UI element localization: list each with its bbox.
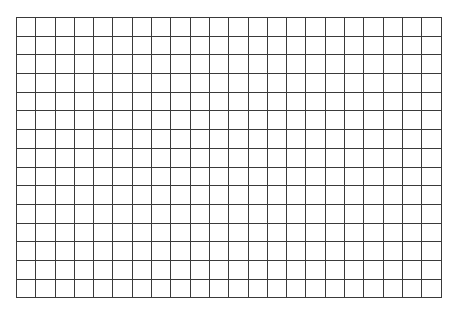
grid-cell — [17, 18, 36, 37]
grid-cell — [133, 149, 152, 168]
grid-cell — [345, 261, 364, 280]
grid-cell — [364, 186, 383, 205]
grid-cell — [56, 93, 75, 112]
grid-cell — [345, 149, 364, 168]
grid-cell — [268, 224, 287, 243]
grid-cell — [171, 93, 190, 112]
grid-cell — [36, 149, 55, 168]
grid-cell — [229, 168, 248, 187]
grid-cell — [345, 37, 364, 56]
grid-cell — [306, 224, 325, 243]
grid-cell — [133, 111, 152, 130]
grid-cell — [56, 261, 75, 280]
grid-cell — [306, 130, 325, 149]
grid-cell — [326, 280, 345, 299]
grid-cell — [56, 186, 75, 205]
grid-cell — [56, 111, 75, 130]
grid-cell — [133, 74, 152, 93]
grid-cell — [36, 168, 55, 187]
grid-cell — [249, 93, 268, 112]
grid-cell — [75, 168, 94, 187]
grid-cell — [268, 55, 287, 74]
grid-cell — [210, 224, 229, 243]
grid-cell — [287, 186, 306, 205]
grid-cell — [268, 74, 287, 93]
grid-cell — [287, 149, 306, 168]
grid-cell — [384, 280, 403, 299]
grid-cell — [17, 93, 36, 112]
grid-cell — [191, 130, 210, 149]
grid-cell — [75, 130, 94, 149]
grid-cell — [364, 224, 383, 243]
grid-cell — [171, 149, 190, 168]
grid-cell — [191, 149, 210, 168]
grid-cell — [75, 74, 94, 93]
grid-cell — [210, 130, 229, 149]
grid-cell — [94, 130, 113, 149]
grid-cell — [326, 242, 345, 261]
grid-cell — [210, 168, 229, 187]
grid-cell — [94, 111, 113, 130]
grid-cell — [113, 111, 132, 130]
grid-cell — [345, 18, 364, 37]
grid-cell — [17, 205, 36, 224]
grid-cell — [403, 261, 422, 280]
grid-cell — [36, 18, 55, 37]
grid-cell — [384, 111, 403, 130]
grid-cell — [17, 37, 36, 56]
grid-cell — [268, 130, 287, 149]
grid-cell — [326, 18, 345, 37]
grid-cell — [422, 242, 441, 261]
grid-cell — [75, 18, 94, 37]
grid-cell — [364, 261, 383, 280]
grid-cell — [287, 168, 306, 187]
grid-cell — [384, 18, 403, 37]
grid-cell — [36, 186, 55, 205]
grid-cell — [403, 55, 422, 74]
grid-cell — [326, 149, 345, 168]
grid-cell — [326, 111, 345, 130]
grid-cell — [306, 261, 325, 280]
grid-cell — [287, 18, 306, 37]
grid-cell — [229, 149, 248, 168]
grid-cell — [268, 280, 287, 299]
grid-cell — [133, 242, 152, 261]
grid-cell — [326, 186, 345, 205]
grid-cell — [384, 261, 403, 280]
grid-cell — [384, 224, 403, 243]
grid-cell — [152, 93, 171, 112]
grid-cell — [403, 74, 422, 93]
grid-cell — [133, 261, 152, 280]
grid-cell — [113, 205, 132, 224]
grid-cell — [171, 74, 190, 93]
grid-cell — [306, 280, 325, 299]
grid-cell — [249, 37, 268, 56]
grid-cell — [403, 130, 422, 149]
grid-cell — [249, 18, 268, 37]
grid-cell — [403, 205, 422, 224]
grid-cell — [422, 18, 441, 37]
grid-cell — [94, 205, 113, 224]
grid-cell — [422, 261, 441, 280]
grid-cell — [191, 261, 210, 280]
grid-cell — [422, 205, 441, 224]
grid-cell — [403, 280, 422, 299]
grid-cell — [326, 224, 345, 243]
grid-cell — [210, 261, 229, 280]
grid-cell — [191, 186, 210, 205]
grid-cell — [249, 186, 268, 205]
grid-cell — [403, 18, 422, 37]
grid-cell — [403, 93, 422, 112]
grid-cell — [306, 205, 325, 224]
grid-cell — [422, 130, 441, 149]
grid-cell — [171, 111, 190, 130]
grid-cell — [94, 186, 113, 205]
grid-cell — [210, 242, 229, 261]
grid-cell — [287, 55, 306, 74]
grid-cell — [191, 74, 210, 93]
grid-cell — [229, 18, 248, 37]
grid-cell — [422, 37, 441, 56]
grid-cell — [152, 168, 171, 187]
grid-cell — [403, 186, 422, 205]
grid-cell — [113, 18, 132, 37]
